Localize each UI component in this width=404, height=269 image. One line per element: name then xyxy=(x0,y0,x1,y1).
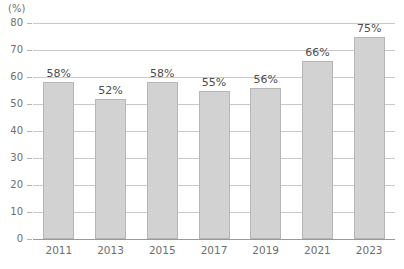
y-tick-mark-80 xyxy=(27,23,32,24)
y-tick-mark-50 xyxy=(27,104,32,105)
data-label-2013: 52% xyxy=(85,85,137,96)
data-label-2023: 75% xyxy=(343,23,395,34)
y-tick-label-0: 0 xyxy=(0,234,23,244)
y-tick-mark-10 xyxy=(27,212,32,213)
bar-2017[interactable] xyxy=(199,91,230,240)
y-tick-mark-60 xyxy=(27,77,32,78)
x-tick-label-2015: 2015 xyxy=(136,245,188,256)
bar-2013[interactable] xyxy=(95,99,126,239)
y-tick-label-10: 10 xyxy=(0,207,23,217)
y-tick-mark-0 xyxy=(27,239,32,240)
x-tick-label-2019: 2019 xyxy=(240,245,292,256)
bar-2019[interactable] xyxy=(250,88,281,239)
bar-2011[interactable] xyxy=(43,82,74,239)
x-tick-label-2017: 2017 xyxy=(188,245,240,256)
y-tick-mark-30 xyxy=(27,158,32,159)
data-label-2019: 56% xyxy=(240,74,292,85)
y-tick-label-70: 70 xyxy=(0,45,23,55)
y-tick-mark-70 xyxy=(27,50,32,51)
data-label-2015: 58% xyxy=(136,68,188,79)
x-tick-label-2011: 2011 xyxy=(33,245,85,256)
y-tick-label-30: 30 xyxy=(0,153,23,163)
bar-2023[interactable] xyxy=(354,37,385,240)
y-tick-label-20: 20 xyxy=(0,180,23,190)
bar-2015[interactable] xyxy=(147,82,178,239)
bar-chart: (%) 01020304050607080 201120132015201720… xyxy=(0,0,404,269)
data-label-2011: 58% xyxy=(33,68,85,79)
y-tick-label-80: 80 xyxy=(0,18,23,28)
gridline-80 xyxy=(33,23,395,24)
x-tick-label-2023: 2023 xyxy=(343,245,395,256)
y-tick-label-50: 50 xyxy=(0,99,23,109)
data-label-2021: 66% xyxy=(291,47,343,58)
bar-2021[interactable] xyxy=(302,61,333,239)
gridline-0 xyxy=(33,239,395,240)
y-tick-mark-40 xyxy=(27,131,32,132)
y-tick-label-60: 60 xyxy=(0,72,23,82)
y-tick-mark-20 xyxy=(27,185,32,186)
data-label-2017: 55% xyxy=(188,77,240,88)
y-axis-unit-label: (%) xyxy=(8,3,25,14)
x-tick-label-2021: 2021 xyxy=(291,245,343,256)
x-tick-label-2013: 2013 xyxy=(85,245,137,256)
y-tick-label-40: 40 xyxy=(0,126,23,136)
